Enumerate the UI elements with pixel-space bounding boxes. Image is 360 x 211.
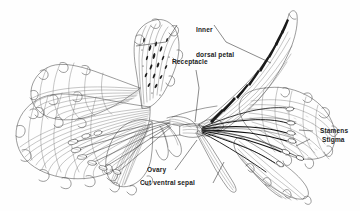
label-ovary: Ovary <box>147 166 166 174</box>
right-dorsal-dark-streaks <box>210 19 289 124</box>
right-flower-group <box>150 11 338 205</box>
right-petal-lower-venation <box>238 141 305 200</box>
left-petal-lower-ruffle-i <box>73 92 82 102</box>
left-stalk-upper <box>172 106 217 117</box>
left-petal-lower-ruffle-e <box>85 175 95 186</box>
left-petal-upperleft-ruffle-f <box>59 62 68 72</box>
left-inner-dorsal-petal-ruffle-b <box>151 19 160 29</box>
leader-lines <box>136 25 313 183</box>
label-receptacle: Receptacle <box>172 58 208 66</box>
leader-stamens <box>299 130 313 131</box>
leader-ovary <box>175 140 197 170</box>
label-stigma: Stigma <box>322 136 345 144</box>
right-petal-lower-ruffle-d <box>246 164 254 173</box>
left-petal-lower-ruffle-d <box>61 177 71 188</box>
label-stamens: Stamens <box>320 127 348 135</box>
label-cut-ventral-sepal: Cut ventral sepal <box>140 179 195 187</box>
left-petal-upperleft-ruffle-g <box>82 65 90 74</box>
left-petal-lower-ruffle-a <box>16 125 25 137</box>
left-petal-upperleft-ruffle-e <box>39 70 48 80</box>
right-petal-fan-ruffle-g <box>281 87 290 97</box>
right-petal-fan-ruffle-d <box>324 146 333 157</box>
left-inner-dorsal-petal-speckles <box>142 38 170 96</box>
leader-receptacle-2 <box>195 88 199 122</box>
left-inner-dorsal-petal-ruffle-e <box>166 76 175 86</box>
right-receptacle-detail <box>183 126 201 134</box>
left-inner-dorsal-petal-ruffle-a <box>135 35 144 45</box>
left-petal-lowerright-ruffle-b <box>127 185 137 195</box>
flower-dissection-figure: Inner dorsal petal Receptacle Stamens St… <box>0 0 360 211</box>
left-flower-group <box>16 19 220 195</box>
leader-inner-dorsal-petal-right <box>214 25 226 42</box>
left-petal-lowerright-ruffle-a <box>110 182 120 192</box>
left-petal-lower-ruffle-g <box>29 109 38 119</box>
right-petal-fan-ruffle-f <box>283 155 292 166</box>
left-anther-detail <box>69 141 121 174</box>
left-petal-lower-ruffle-c <box>39 169 49 181</box>
right-dorsal-tip-notch <box>289 14 296 19</box>
right-petal-fan-stipple <box>276 112 320 150</box>
